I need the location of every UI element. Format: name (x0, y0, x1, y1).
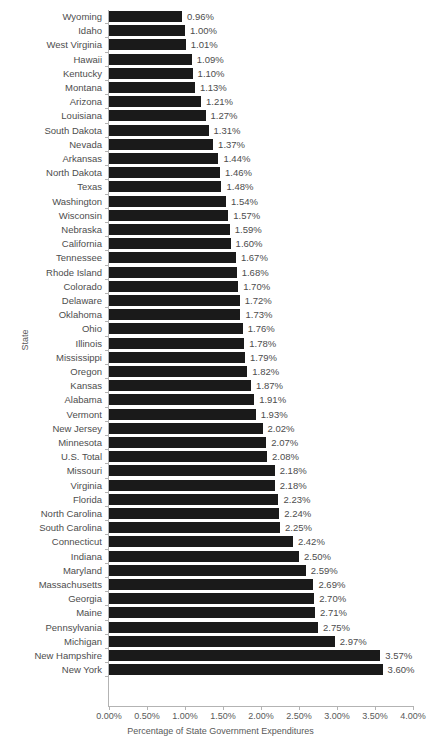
value-label: 1.37% (218, 138, 245, 152)
category-label: South Carolina (39, 521, 102, 535)
bar (109, 210, 228, 221)
value-label: 2.59% (311, 564, 338, 578)
category-label: Wisconsin (59, 209, 102, 223)
x-tick-mark (261, 706, 262, 710)
bar-row: Florida2.23% (109, 493, 413, 507)
bar-row: Oklahoma1.73% (109, 308, 413, 322)
bar-row: Vermont1.93% (109, 408, 413, 422)
value-label: 1.57% (233, 209, 260, 223)
category-label: California (62, 237, 102, 251)
category-label: New York (62, 663, 102, 677)
value-label: 1.91% (259, 393, 286, 407)
bar-row: U.S. Total2.08% (109, 450, 413, 464)
plot-area: Wyoming0.96%Idaho1.00%West Virginia1.01%… (109, 10, 413, 706)
value-label: 3.57% (385, 649, 412, 663)
value-label: 2.97% (340, 635, 367, 649)
x-tick-label: 3.00% (324, 711, 350, 721)
category-label: Alabama (65, 393, 103, 407)
category-label: Vermont (67, 408, 102, 422)
category-label: Mississippi (56, 351, 102, 365)
bar (109, 494, 278, 505)
x-tick-mark (185, 706, 186, 710)
category-label: U.S. Total (61, 450, 102, 464)
bar (109, 252, 236, 263)
x-tick-label: 2.00% (248, 711, 274, 721)
bar (109, 593, 314, 604)
value-label: 1.09% (197, 53, 224, 67)
value-label: 1.27% (211, 109, 238, 123)
bar-row: Idaho1.00% (109, 24, 413, 38)
value-label: 1.44% (223, 152, 250, 166)
bar (109, 281, 238, 292)
category-label: Massachusetts (39, 578, 102, 592)
category-label: Illinois (76, 337, 102, 351)
category-label: Delaware (62, 294, 102, 308)
value-label: 1.79% (250, 351, 277, 365)
y-axis-title: State (20, 310, 30, 370)
bar-row: Arizona1.21% (109, 95, 413, 109)
x-tick-label: 1.50% (210, 711, 236, 721)
value-label: 1.72% (245, 294, 272, 308)
value-label: 1.13% (200, 81, 227, 95)
value-label: 1.78% (249, 337, 276, 351)
category-label: Nevada (69, 138, 102, 152)
bar-row: West Virginia1.01% (109, 38, 413, 52)
value-label: 1.10% (198, 67, 225, 81)
bar-row: Maryland2.59% (109, 564, 413, 578)
value-label: 2.50% (304, 550, 331, 564)
bar (109, 579, 313, 590)
value-label: 1.93% (261, 408, 288, 422)
bar-row: North Carolina2.24% (109, 507, 413, 521)
category-label: Kentucky (63, 67, 102, 81)
x-tick-mark (299, 706, 300, 710)
category-label: Ohio (82, 322, 102, 336)
category-label: West Virginia (46, 38, 102, 52)
category-label: Arkansas (62, 152, 102, 166)
category-label: Pennsylvania (45, 621, 102, 635)
bar (109, 607, 315, 618)
bar-row: Pennsylvania2.75% (109, 621, 413, 635)
bar-row: Colorado1.70% (109, 280, 413, 294)
bar-row: Hawaii1.09% (109, 53, 413, 67)
bar-row: Indiana2.50% (109, 550, 413, 564)
x-tick-label: 3.50% (362, 711, 388, 721)
category-label: New Jersey (52, 422, 102, 436)
x-tick-mark (109, 706, 110, 710)
category-label: Colorado (63, 280, 102, 294)
value-label: 1.76% (248, 322, 275, 336)
value-label: 2.25% (285, 521, 312, 535)
category-label: Oklahoma (59, 308, 102, 322)
bar (109, 551, 299, 562)
category-label: Maryland (63, 564, 102, 578)
bar (109, 622, 318, 633)
value-label: 1.00% (190, 24, 217, 38)
category-label: Louisiana (61, 109, 102, 123)
bar (109, 366, 247, 377)
category-label: North Dakota (46, 166, 102, 180)
value-label: 1.01% (191, 38, 218, 52)
bar (109, 480, 275, 491)
bar (109, 522, 280, 533)
category-label: Virginia (70, 479, 102, 493)
x-tick-mark (337, 706, 338, 710)
bar-row: Arkansas1.44% (109, 152, 413, 166)
bar (109, 650, 380, 661)
category-label: Oregon (70, 365, 102, 379)
value-label: 1.48% (226, 180, 253, 194)
value-label: 1.46% (225, 166, 252, 180)
value-label: 2.18% (280, 479, 307, 493)
value-label: 2.08% (272, 450, 299, 464)
x-tick-mark (375, 706, 376, 710)
bar-row: Alabama1.91% (109, 393, 413, 407)
x-tick-mark (223, 706, 224, 710)
x-tick-label: 1.00% (172, 711, 198, 721)
bar (109, 437, 266, 448)
value-label: 2.18% (280, 464, 307, 478)
category-label: Rhode Island (46, 266, 102, 280)
category-label: Washington (52, 195, 102, 209)
category-label: Hawaii (73, 53, 102, 67)
bar (109, 352, 245, 363)
bar-chart: State Wyoming0.96%Idaho1.00%West Virgini… (0, 0, 441, 743)
bar-row: New Hampshire3.57% (109, 649, 413, 663)
category-label: Indiana (71, 550, 102, 564)
